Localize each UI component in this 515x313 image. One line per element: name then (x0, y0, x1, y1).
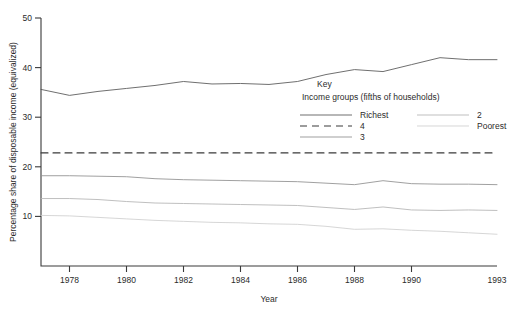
y-axis-title: Percentage share of disposable income (e… (8, 42, 18, 242)
line-chart: 1020304050197819801982198419861988199019… (0, 0, 515, 313)
y-axis-tick-label: 20 (23, 162, 33, 172)
x-axis-tick-label: 1982 (174, 275, 193, 285)
legend-title: Key (317, 79, 332, 89)
legend-label-poorest: Poorest (477, 121, 507, 131)
x-axis-tick-label: 1978 (60, 275, 79, 285)
series-line-3 (41, 176, 497, 185)
y-axis-tick-label: 10 (23, 211, 33, 221)
legend-subtitle: Income groups (fifths of households) (302, 92, 440, 102)
x-axis-tick-label: 1980 (117, 275, 136, 285)
series-line-2 (41, 199, 497, 211)
y-axis-tick-label: 30 (23, 112, 33, 122)
x-axis-tick-label: 1986 (288, 275, 307, 285)
series-line-poorest (41, 215, 497, 234)
legend-label-3: 3 (360, 132, 365, 142)
chart-container: 1020304050197819801982198419861988199019… (0, 0, 515, 313)
x-axis-tick-label: 1988 (345, 275, 364, 285)
x-axis-tick-label: 1990 (402, 275, 421, 285)
series-line-richest (41, 58, 497, 96)
y-axis-tick-label: 50 (23, 13, 33, 23)
x-axis-title: Year (260, 294, 277, 304)
y-axis-tick-label: 40 (23, 63, 33, 73)
legend-label-2: 2 (477, 110, 482, 120)
axis-lines (41, 18, 497, 266)
x-axis-tick-label: 1984 (231, 275, 250, 285)
legend-label-4: 4 (360, 121, 365, 131)
legend-label-richest: Richest (360, 110, 389, 120)
x-axis-tick-label: 1993 (488, 275, 507, 285)
